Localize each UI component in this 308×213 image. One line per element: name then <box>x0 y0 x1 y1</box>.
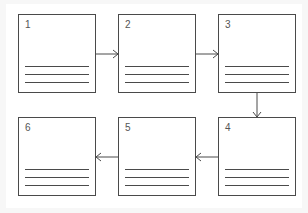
connector-arrows <box>0 0 308 213</box>
